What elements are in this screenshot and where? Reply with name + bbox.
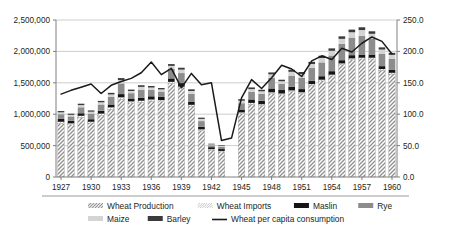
bar-segment <box>128 103 135 177</box>
bar-segment <box>308 85 315 177</box>
x-axis-tick-label: 1957 <box>353 183 372 192</box>
bar-segment <box>329 51 336 56</box>
bar-stack <box>188 89 195 177</box>
bar-stack <box>168 64 175 177</box>
bar-stack <box>298 72 305 177</box>
legend-swatch <box>198 203 213 208</box>
plot-background <box>56 20 397 177</box>
bar-segment <box>168 83 175 177</box>
bar-segment <box>148 86 155 88</box>
legend-item[interactable]: Wheat per capita consumption <box>212 214 344 224</box>
bar-segment <box>198 131 205 177</box>
bar-segment <box>138 98 145 101</box>
bar-segment <box>349 32 356 37</box>
bar-segment <box>198 121 205 127</box>
bar-segment <box>58 124 65 177</box>
bar-segment <box>349 58 356 59</box>
bar-segment <box>258 101 265 104</box>
bar-segment <box>248 87 255 89</box>
bar-segment <box>108 93 115 95</box>
bar-segment <box>108 97 115 105</box>
bar-segment <box>158 102 165 177</box>
legend-item[interactable]: Barley <box>148 214 192 224</box>
bar-segment <box>318 76 325 79</box>
bar-segment <box>58 111 65 112</box>
bar-segment <box>68 114 75 115</box>
bar-segment <box>58 112 65 114</box>
bar-segment <box>248 99 255 102</box>
bar-segment <box>98 115 105 177</box>
y-axis-tick-label: 500,000 <box>20 142 50 151</box>
bar-segment <box>198 129 205 130</box>
bar-segment <box>188 102 195 105</box>
bar-segment <box>148 101 155 177</box>
bar-segment <box>188 106 195 177</box>
bar-segment <box>339 65 346 177</box>
legend-item[interactable]: Wheat Production <box>88 201 174 211</box>
bar-segment <box>369 31 376 34</box>
bar-stack <box>118 78 125 177</box>
bar-segment <box>339 39 346 44</box>
bar-segment <box>248 92 255 100</box>
bar-segment <box>178 88 185 177</box>
bar-segment <box>78 104 85 105</box>
bar-segment <box>148 96 155 99</box>
bar-segment <box>258 105 265 177</box>
y2-axis-tick-label: 50.0 <box>403 142 419 151</box>
bar-segment <box>158 92 165 97</box>
bar-stack <box>128 90 135 177</box>
y2-axis-tick-label: 100.0 <box>403 110 424 119</box>
y2-axis-tick-label: 150.0 <box>403 79 424 88</box>
bar-stack <box>218 145 225 177</box>
bar-stack <box>268 72 275 177</box>
bar-segment <box>258 104 265 105</box>
bar-segment <box>118 97 125 99</box>
bar-segment <box>78 116 85 118</box>
bar-segment <box>318 62 325 76</box>
bar-stack <box>318 56 325 177</box>
bar-segment <box>288 90 295 91</box>
bar-stack <box>148 86 155 177</box>
bar-segment <box>168 78 175 81</box>
bar-segment <box>258 94 265 101</box>
legend-item[interactable]: Rye <box>358 201 392 211</box>
legend-label: Wheat Imports <box>217 201 271 211</box>
bar-segment <box>108 107 115 109</box>
bar-segment <box>218 145 225 146</box>
bar-segment <box>238 112 245 113</box>
legend-item[interactable]: Maslin <box>294 201 338 211</box>
bar-stack <box>88 110 95 177</box>
legend-label: Rye <box>377 201 392 211</box>
bar-segment <box>268 88 275 92</box>
legend-item[interactable]: Maize <box>88 214 130 224</box>
bar-segment <box>128 99 135 102</box>
bar-segment <box>288 72 295 76</box>
bar-segment <box>108 94 115 97</box>
bar-segment <box>379 47 386 49</box>
bar-segment <box>389 70 396 73</box>
bar-segment <box>389 74 396 177</box>
bar-segment <box>88 122 95 123</box>
bar-segment <box>369 58 376 59</box>
bar-segment <box>78 117 85 177</box>
bar-segment <box>329 71 336 74</box>
bar-segment <box>218 146 225 147</box>
x-axis-tick-label: 1933 <box>112 183 131 192</box>
bar-segment <box>248 103 255 104</box>
y-axis-tick-label: 2,500,000 <box>14 16 51 25</box>
legend-label: Wheat Production <box>107 201 174 211</box>
bar-segment <box>208 144 215 145</box>
bar-segment <box>68 125 75 177</box>
bar-segment <box>138 102 145 177</box>
legend-item[interactable]: Wheat Imports <box>198 201 271 211</box>
bar-segment <box>369 59 376 177</box>
bar-segment <box>158 89 165 91</box>
bar-segment <box>369 39 376 55</box>
bar-segment <box>339 36 346 39</box>
bar-segment <box>148 90 155 96</box>
bar-stack <box>108 93 115 177</box>
bar-stack <box>78 104 85 177</box>
bar-segment <box>379 66 386 69</box>
bar-segment <box>78 113 85 116</box>
bar-stack <box>98 101 105 177</box>
